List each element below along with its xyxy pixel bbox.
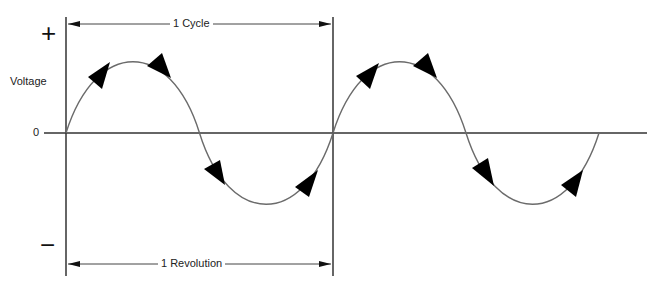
direction-arrow-icon	[561, 170, 583, 197]
direction-arrow-icon	[472, 158, 494, 186]
direction-arrow-icon	[356, 63, 379, 89]
positive-symbol: +	[41, 20, 56, 46]
y-axis-label: Voltage	[10, 75, 47, 87]
negative-symbol: −	[40, 232, 55, 258]
sine-wave-diagram	[0, 0, 654, 285]
direction-arrow-icon	[204, 160, 225, 185]
revolution-label: 1 Revolution	[158, 257, 225, 269]
direction-arrow-icon	[295, 170, 318, 197]
direction-arrow-icon	[413, 53, 437, 78]
direction-arrow-icon	[147, 53, 171, 78]
zero-label: 0	[33, 126, 39, 138]
cycle-label: 1 Cycle	[170, 17, 213, 29]
